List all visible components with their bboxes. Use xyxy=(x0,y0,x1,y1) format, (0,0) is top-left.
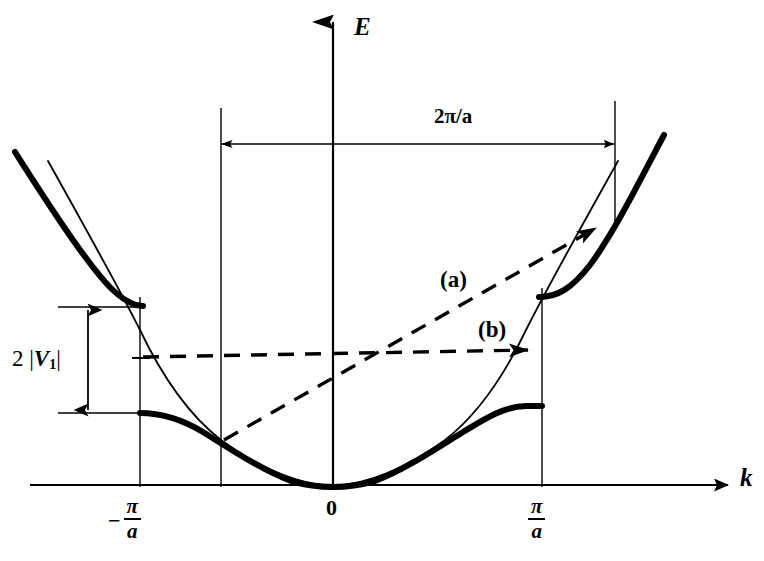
negative-zone-boundary-tick-label: −πa xyxy=(108,496,141,542)
origin-tick-label: 0 xyxy=(326,497,337,519)
energy-axis-label: E xyxy=(354,14,371,39)
band-structure-figure: E k 2π/a 2 |V1| (a) (b) 0 −πa πa xyxy=(0,0,764,561)
negative-tick-denominator: a xyxy=(124,520,141,542)
band-gap-close-bar: | xyxy=(56,346,61,371)
band-gap-label: 2 |V1| xyxy=(12,347,61,372)
wavevector-axis-label: k xyxy=(740,465,753,490)
transition-b-arrow xyxy=(143,350,528,357)
pi-over-a-fraction: πa xyxy=(528,496,545,542)
upper-band-left-curve xyxy=(15,152,143,306)
transition-b-label: (b) xyxy=(478,318,506,341)
transition-a-label: (a) xyxy=(440,268,467,291)
negative-tick-numerator: π xyxy=(124,496,141,520)
band-gap-symbol: V xyxy=(34,346,49,371)
positive-tick-numerator: π xyxy=(528,496,545,520)
negative-sign: − xyxy=(108,510,124,532)
positive-zone-boundary-tick-label: πa xyxy=(528,496,545,542)
positive-tick-denominator: a xyxy=(528,520,545,542)
lower-band-curve xyxy=(140,406,542,487)
band-structure-plot xyxy=(0,0,764,561)
upper-band-right-curve xyxy=(539,135,664,297)
negative-pi-over-a-fraction: πa xyxy=(124,496,141,542)
band-gap-coefficient: 2 xyxy=(12,346,24,371)
zone-width-label: 2π/a xyxy=(434,106,472,127)
